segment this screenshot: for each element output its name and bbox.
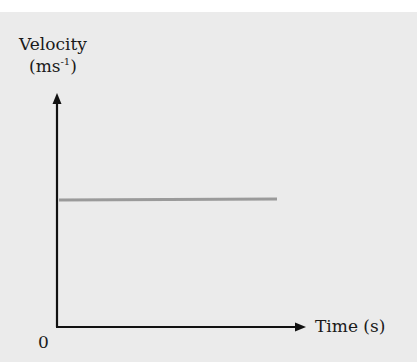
x-axis-arrowhead-icon — [295, 323, 306, 332]
velocity-time-graph — [0, 0, 417, 362]
y-axis-label: Velocity — [19, 34, 87, 54]
constant-velocity-line — [59, 199, 277, 200]
origin-label: 0 — [38, 332, 49, 352]
y-axis-arrowhead-icon — [53, 93, 62, 104]
y-axis-unit: (ms-1) — [29, 56, 77, 76]
x-axis-label: Time (s) — [315, 316, 385, 336]
